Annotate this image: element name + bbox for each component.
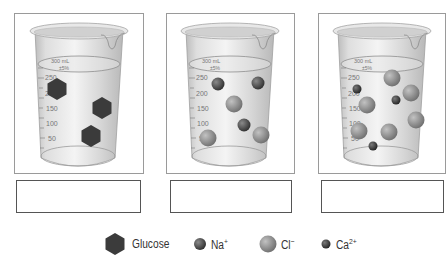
calcium-ion <box>353 85 362 94</box>
legend-label-glucose: Glucose <box>132 237 169 251</box>
legend-item-ca: Ca2+ <box>321 232 360 256</box>
beaker-1: 300 mL ±5% 250 200 150 100 50 <box>30 23 128 166</box>
marking-top: 300 mL <box>51 58 69 64</box>
beakers-illustration: 300 mL ±5% 250 200 150 100 50 300 mL ±5%… <box>0 0 444 180</box>
svg-text:100: 100 <box>197 120 209 127</box>
svg-text:100: 100 <box>46 120 58 127</box>
sodium-ion <box>212 78 225 91</box>
chloride-ion <box>351 123 368 140</box>
svg-text:300 mL: 300 mL <box>202 58 220 64</box>
svg-text:150: 150 <box>46 105 58 112</box>
chloride-ion <box>381 124 398 141</box>
legend-label-na: Na+ <box>211 237 228 252</box>
calcium-ion-icon <box>321 239 331 249</box>
legend-item-cl: Cl− <box>259 232 297 256</box>
sodium-ion-icon <box>193 237 207 251</box>
svg-text:200: 200 <box>196 90 208 97</box>
legend: Glucose Na+ Cl− Ca2+ <box>0 232 444 256</box>
chloride-ion <box>359 97 376 114</box>
calcium-ion <box>369 142 378 151</box>
glucose-hexagon-icon <box>103 232 127 256</box>
svg-text:50: 50 <box>48 135 56 142</box>
chloride-ion <box>408 112 425 129</box>
sodium-ion <box>238 119 251 132</box>
answer-box-1[interactable] <box>16 180 141 213</box>
svg-text:±5%: ±5% <box>210 65 221 71</box>
chloride-ion <box>200 130 217 147</box>
svg-text:250: 250 <box>348 74 360 81</box>
chloride-ion <box>384 70 401 87</box>
svg-text:250: 250 <box>196 74 208 81</box>
chloride-ion-icon <box>259 235 277 253</box>
answer-box-2[interactable] <box>170 180 292 213</box>
answer-box-3[interactable] <box>321 180 444 213</box>
chloride-ion <box>253 127 270 144</box>
svg-text:±5%: ±5% <box>362 65 373 71</box>
chloride-ion <box>226 96 243 113</box>
legend-item-na: Na+ <box>193 232 231 256</box>
svg-text:150: 150 <box>197 105 209 112</box>
beaker-2: 300 mL ±5% 250 200 150 100 50 <box>181 23 279 166</box>
chloride-ion <box>403 85 420 102</box>
legend-item-glucose: Glucose <box>103 232 176 256</box>
legend-label-ca: Ca2+ <box>336 237 357 252</box>
calcium-ion <box>392 96 401 105</box>
sodium-ion <box>252 77 265 90</box>
legend-label-cl: Cl− <box>281 237 295 252</box>
svg-text:±5%: ±5% <box>59 65 70 71</box>
svg-text:300 mL: 300 mL <box>354 58 372 64</box>
